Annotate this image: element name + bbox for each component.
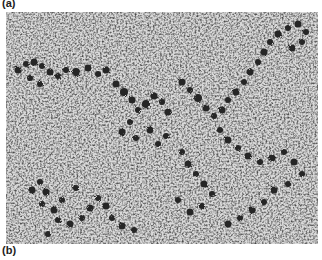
panel-label-a: (a) [2,0,15,9]
electron-micrograph [6,12,318,244]
panel-label-b: (b) [2,244,16,256]
micrograph-graphic [6,12,318,244]
